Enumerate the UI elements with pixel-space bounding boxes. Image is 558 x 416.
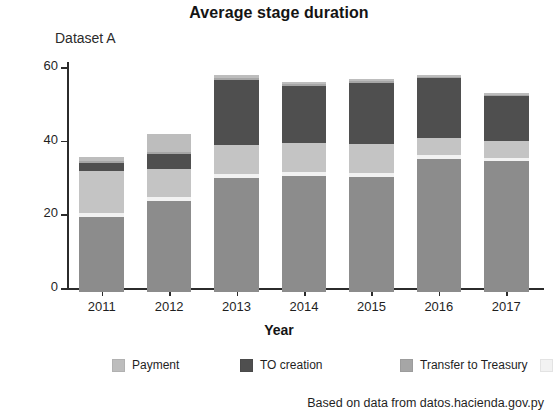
bar-segment[interactable] bbox=[349, 177, 394, 292]
bar-segment[interactable] bbox=[484, 158, 529, 161]
legend-item[interactable]: Payment bbox=[112, 356, 240, 374]
legend-swatch-icon bbox=[400, 359, 413, 372]
y-tick-mark bbox=[61, 141, 67, 143]
legend-label: Payment bbox=[132, 358, 179, 372]
bar-2012[interactable] bbox=[147, 134, 192, 292]
x-tick-label: 2016 bbox=[409, 299, 469, 314]
bar-segment[interactable] bbox=[282, 86, 327, 144]
bar-segment[interactable] bbox=[349, 144, 394, 173]
x-tick-label: 2011 bbox=[72, 299, 132, 314]
chart-container: Average stage duration Dataset A Total d… bbox=[0, 0, 558, 416]
x-tick-label: 2012 bbox=[139, 299, 199, 314]
bar-segment[interactable] bbox=[214, 80, 259, 145]
bar-segment[interactable] bbox=[484, 161, 529, 292]
bar-segment[interactable] bbox=[79, 217, 124, 292]
y-tick-label: 0 bbox=[18, 279, 58, 294]
bar-segment[interactable] bbox=[282, 143, 327, 172]
bar-segment[interactable] bbox=[484, 93, 529, 94]
bar-segment[interactable] bbox=[147, 134, 192, 152]
bar-segment[interactable] bbox=[417, 75, 462, 76]
bar-2011[interactable] bbox=[79, 157, 124, 292]
x-axis-title: Year bbox=[0, 322, 558, 338]
y-tick-mark bbox=[61, 214, 67, 216]
chart-subtitle: Dataset A bbox=[55, 30, 116, 46]
bar-segment[interactable] bbox=[79, 171, 124, 214]
legend-item[interactable]: TR approval bbox=[540, 356, 558, 374]
chart-title: Average stage duration bbox=[0, 4, 558, 22]
bar-segment[interactable] bbox=[79, 213, 124, 216]
bar-segment[interactable] bbox=[282, 176, 327, 292]
bar-segment[interactable] bbox=[147, 201, 192, 292]
x-tick-label: 2017 bbox=[476, 299, 536, 314]
bar-2015[interactable] bbox=[349, 79, 394, 292]
bar-segment[interactable] bbox=[79, 161, 124, 163]
bar-2013[interactable] bbox=[214, 75, 259, 292]
bar-segment[interactable] bbox=[147, 169, 192, 197]
bar-segment[interactable] bbox=[214, 78, 259, 80]
bar-segment[interactable] bbox=[79, 163, 124, 170]
bar-segment[interactable] bbox=[214, 178, 259, 292]
bar-segment[interactable] bbox=[349, 79, 394, 81]
bar-segment[interactable] bbox=[79, 157, 124, 161]
x-tick-label: 2014 bbox=[274, 299, 334, 314]
y-tick-label: 60 bbox=[18, 58, 58, 73]
bar-segment[interactable] bbox=[214, 75, 259, 78]
legend-item[interactable]: Transfer to Treasury bbox=[400, 356, 540, 374]
bar-segment[interactable] bbox=[417, 159, 462, 292]
y-tick-label: 40 bbox=[18, 132, 58, 147]
bar-segment[interactable] bbox=[417, 138, 462, 155]
bar-segment[interactable] bbox=[417, 78, 462, 137]
chart-caption: Based on data from datos.hacienda.gov.py bbox=[307, 396, 544, 410]
bar-2016[interactable] bbox=[417, 75, 462, 292]
legend-swatch-icon bbox=[112, 359, 125, 372]
bar-segment[interactable] bbox=[484, 96, 529, 141]
bar-segment[interactable] bbox=[214, 174, 259, 178]
legend-label: Transfer to Treasury bbox=[420, 358, 528, 372]
y-tick-mark bbox=[61, 67, 67, 69]
bar-segment[interactable] bbox=[214, 145, 259, 174]
bar-segment[interactable] bbox=[282, 84, 327, 86]
bar-segment[interactable] bbox=[282, 82, 327, 83]
legend-swatch-icon bbox=[540, 359, 553, 372]
bar-segment[interactable] bbox=[147, 152, 192, 154]
bar-segment[interactable] bbox=[417, 77, 462, 79]
legend-label: TO creation bbox=[260, 358, 322, 372]
x-tick-label: 2015 bbox=[341, 299, 401, 314]
y-tick-mark bbox=[61, 288, 67, 290]
bar-segment[interactable] bbox=[349, 173, 394, 177]
bar-segment[interactable] bbox=[147, 197, 192, 201]
bar-segment[interactable] bbox=[484, 95, 529, 97]
legend-swatch-icon bbox=[240, 359, 253, 372]
plot-area bbox=[68, 60, 540, 292]
bar-segment[interactable] bbox=[417, 155, 462, 159]
bar-2014[interactable] bbox=[282, 82, 327, 292]
bar-segment[interactable] bbox=[282, 172, 327, 176]
bar-segment[interactable] bbox=[349, 81, 394, 83]
bar-2017[interactable] bbox=[484, 93, 529, 292]
legend-item[interactable]: TO creation bbox=[240, 356, 400, 374]
y-tick-label: 20 bbox=[18, 205, 58, 220]
bar-segment[interactable] bbox=[484, 141, 529, 158]
x-tick-label: 2013 bbox=[207, 299, 267, 314]
bar-segment[interactable] bbox=[147, 154, 192, 169]
chart-legend: PaymentTO creationTransfer to TreasuryTR… bbox=[112, 356, 542, 374]
bar-segment[interactable] bbox=[349, 83, 394, 144]
